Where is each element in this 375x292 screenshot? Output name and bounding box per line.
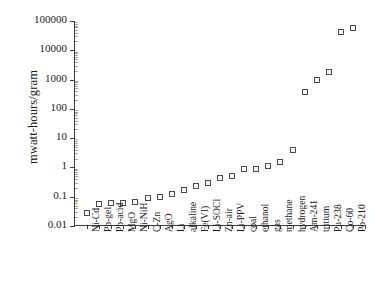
y-axis-minor-tick xyxy=(75,112,78,113)
y-axis-minor-tick xyxy=(75,113,78,114)
data-point xyxy=(302,89,308,95)
y-axis-minor-tick xyxy=(75,188,78,189)
x-axis-tick-mark xyxy=(256,225,257,229)
y-axis-minor-tick xyxy=(75,147,78,148)
y-axis-minor-tick xyxy=(75,110,78,111)
y-axis-minor-tick xyxy=(75,53,78,54)
data-point xyxy=(241,166,247,172)
y-axis-minor-tick xyxy=(75,24,78,25)
y-axis-minor-tick xyxy=(75,88,78,89)
y-axis-minor-tick xyxy=(75,22,78,23)
y-axis-minor-tick xyxy=(75,159,78,160)
y-axis-minor-tick xyxy=(75,150,78,151)
x-axis-tick-mark xyxy=(232,225,233,229)
x-axis-tick-mark xyxy=(305,225,306,229)
y-axis-minor-tick xyxy=(75,71,78,72)
x-axis-tick-mark xyxy=(208,225,209,229)
y-axis-minor-tick xyxy=(75,206,78,207)
data-point xyxy=(205,180,211,186)
x-axis-tick-mark xyxy=(196,225,197,229)
y-axis-minor-tick xyxy=(75,145,78,146)
data-point xyxy=(84,210,90,216)
y-axis-minor-tick xyxy=(75,124,78,125)
x-axis-tick-mark xyxy=(220,225,221,229)
x-axis-tick-mark xyxy=(317,225,318,229)
x-axis-tick-mark xyxy=(111,225,112,229)
y-axis-minor-tick xyxy=(75,81,78,82)
y-axis-minor-tick xyxy=(75,82,78,83)
x-axis-tick-mark xyxy=(160,225,161,229)
data-point xyxy=(120,200,126,206)
y-axis-tick-label: 1 xyxy=(62,159,68,171)
y-axis-minor-tick xyxy=(75,33,78,34)
y-axis-minor-tick xyxy=(75,95,78,96)
y-axis-minor-tick xyxy=(75,212,78,213)
y-axis-minor-tick xyxy=(75,174,78,175)
y-axis-minor-tick xyxy=(75,200,78,201)
y-axis-minor-tick xyxy=(75,153,78,154)
y-axis-minor-tick xyxy=(75,217,78,218)
data-point xyxy=(314,77,320,83)
y-axis-minor-tick xyxy=(75,118,78,119)
y-axis-tick-label: 100000 xyxy=(34,13,67,25)
data-point xyxy=(326,69,332,75)
y-axis-minor-tick xyxy=(75,59,78,60)
y-axis-minor-tick xyxy=(75,176,78,177)
y-axis-tick-label: 0.1 xyxy=(53,189,67,201)
y-axis-minor-tick xyxy=(75,66,78,67)
y-axis-minor-tick xyxy=(75,170,78,171)
y-axis-minor-tick xyxy=(75,30,78,31)
y-axis-minor-tick xyxy=(75,84,78,85)
data-point xyxy=(108,200,114,206)
data-point xyxy=(96,201,102,207)
y-axis-minor-tick xyxy=(75,198,78,199)
y-axis-minor-tick xyxy=(75,57,78,58)
x-axis-tick-mark xyxy=(244,225,245,229)
y-axis-minor-tick xyxy=(75,41,78,42)
x-axis-tick-mark xyxy=(293,225,294,229)
y-axis-minor-tick xyxy=(75,141,78,142)
x-axis-tick-mark xyxy=(99,225,100,229)
y-axis-minor-tick xyxy=(75,203,78,204)
data-point xyxy=(265,163,271,169)
plot-area: 0.010.1110100100010000100000 xyxy=(74,21,364,226)
y-axis-minor-tick xyxy=(75,52,78,53)
data-point xyxy=(277,159,283,165)
y-axis-tick-label: 10000 xyxy=(40,42,68,54)
y-axis-tick-label: 10 xyxy=(56,130,67,142)
x-axis-tick-mark xyxy=(123,225,124,229)
data-point xyxy=(132,199,138,205)
x-axis-tick-mark xyxy=(135,225,136,229)
x-axis-tick-mark xyxy=(280,225,281,229)
y-axis-minor-tick xyxy=(75,172,78,173)
data-point xyxy=(145,195,151,201)
data-point xyxy=(157,194,163,200)
x-axis-tick-mark xyxy=(87,225,88,229)
y-axis-minor-tick xyxy=(75,139,78,140)
energy-density-chart: mwatt-hours/gram 0.010.11101001000100001… xyxy=(0,0,375,292)
data-point xyxy=(169,191,175,197)
y-axis-minor-tick xyxy=(75,55,78,56)
y-axis-tick-mark xyxy=(70,226,75,227)
data-point xyxy=(338,29,344,35)
x-axis-tick-mark xyxy=(148,225,149,229)
y-axis-title: mwatt-hours/gram xyxy=(22,2,44,232)
data-point xyxy=(350,25,356,31)
data-point xyxy=(193,183,199,189)
y-axis-minor-tick xyxy=(75,27,78,28)
data-point xyxy=(290,147,296,153)
x-axis-tick-mark xyxy=(353,225,354,229)
y-axis-minor-tick xyxy=(75,201,78,202)
data-point xyxy=(181,187,187,193)
y-axis-minor-tick xyxy=(75,179,78,180)
x-axis-tick-mark xyxy=(329,225,330,229)
y-axis-tick-label: 1000 xyxy=(45,72,67,84)
data-point xyxy=(229,173,235,179)
x-axis-tick-mark xyxy=(172,225,173,229)
x-axis-tick-mark xyxy=(341,225,342,229)
y-axis-minor-tick xyxy=(75,36,78,37)
data-point xyxy=(253,166,259,172)
y-axis-minor-tick xyxy=(75,183,78,184)
y-axis-minor-tick xyxy=(75,143,78,144)
y-axis-tick-label: 0.01 xyxy=(48,218,67,230)
